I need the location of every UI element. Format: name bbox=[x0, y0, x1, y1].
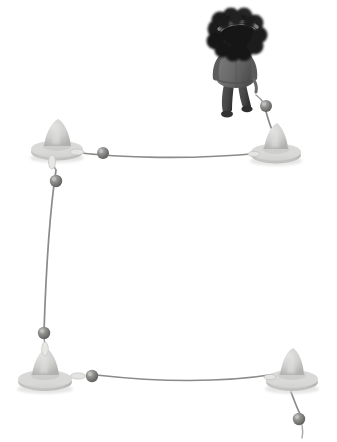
cone-ground-shadow bbox=[17, 384, 73, 394]
scene-illustration bbox=[0, 0, 337, 442]
ball-connector bbox=[86, 370, 98, 382]
ball-connector bbox=[293, 413, 305, 425]
ball-connector bbox=[97, 147, 109, 159]
hook-clip-icon bbox=[42, 342, 49, 356]
cone-ground-shadow bbox=[250, 156, 302, 166]
scene-image: Person walking behind a line of connecte… bbox=[0, 0, 337, 442]
ball-connector bbox=[50, 175, 62, 187]
hook-clip-icon bbox=[248, 151, 260, 156]
ball-connector bbox=[260, 100, 272, 112]
hook-clip-icon bbox=[71, 373, 86, 379]
ball-connector bbox=[38, 327, 50, 339]
hook-clip-icon bbox=[49, 155, 56, 169]
hook-clip-icon bbox=[264, 374, 276, 379]
cone-ground-shadow bbox=[265, 384, 319, 394]
rope-lower-right-tail bbox=[302, 425, 303, 438]
hook-clip-icon bbox=[70, 149, 84, 155]
